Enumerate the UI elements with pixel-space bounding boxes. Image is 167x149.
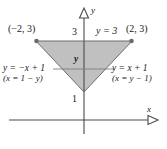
equation-right-main: y = x + 1 bbox=[112, 63, 148, 73]
y-axis-tick-label-3: 3 bbox=[72, 27, 77, 38]
y-axis-label: y bbox=[91, 6, 95, 15]
vertex-dot-right bbox=[129, 39, 134, 44]
equation-label-left-boundary: y = −x + 1 (x = 1 − y) bbox=[3, 64, 45, 83]
figure-canvas: (−2, 3) (2, 3) 3 1 y = 3 y = −x + 1 (x =… bbox=[0, 0, 167, 149]
x-axis-label: x bbox=[147, 105, 151, 114]
x-axis-arrowhead-icon bbox=[148, 116, 158, 125]
vertex-label-right: (2, 3) bbox=[126, 24, 148, 35]
y-axis-arrowhead-icon bbox=[80, 8, 89, 18]
y-axis-tick-label-1: 1 bbox=[72, 94, 77, 105]
equation-left-alt-form: (x = 1 − y) bbox=[3, 74, 45, 83]
equation-left-main: y = −x + 1 bbox=[3, 63, 45, 73]
vertex-label-left: (−2, 3) bbox=[8, 24, 35, 35]
equation-label-top-boundary: y = 3 bbox=[96, 26, 117, 37]
vertex-dot-left bbox=[34, 39, 39, 44]
equation-label-right-boundary: y = x + 1 (x = y − 1) bbox=[112, 64, 152, 83]
equation-right-alt-form: (x = y − 1) bbox=[112, 74, 152, 83]
slice-variable-label: y bbox=[74, 55, 78, 65]
